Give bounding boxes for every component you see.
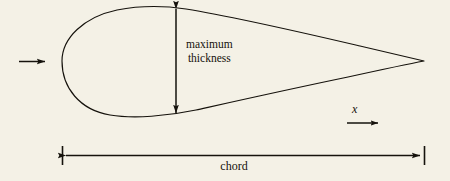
maximum-thickness-label: maximum thickness (186, 38, 233, 65)
maximum-thickness-label-line2: thickness (186, 52, 233, 66)
airfoil-diagram-canvas (0, 0, 450, 181)
airfoil-diagram: maximum thickness chord x (0, 0, 450, 181)
chord-label-wrapper: chord (0, 159, 450, 173)
chord-label: chord (220, 159, 247, 173)
maximum-thickness-label-line1: maximum (186, 38, 233, 52)
airfoil-outline (62, 7, 424, 117)
x-axis-label: x (352, 102, 357, 116)
